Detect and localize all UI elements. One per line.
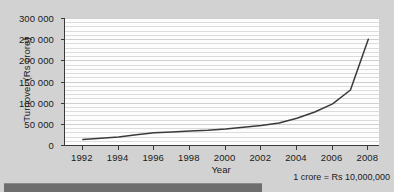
y-axis-tick-label: 150 000	[19, 76, 54, 87]
x-axis-tick-label: 1996	[142, 152, 164, 163]
y-axis-tick	[61, 124, 65, 125]
y-axis-tick	[61, 82, 65, 83]
series-turnover-line	[65, 18, 379, 145]
x-axis-tick-label: 2006	[321, 152, 343, 163]
y-axis-tick-label: 100 000	[19, 97, 54, 108]
x-axis-tick-label: 1992	[71, 152, 93, 163]
x-axis-tick	[332, 146, 333, 150]
x-axis-tick	[296, 146, 297, 150]
x-axis-tick	[153, 146, 154, 150]
x-axis-tick	[260, 146, 261, 150]
y-axis-tick-label: 0	[49, 140, 54, 151]
x-axis-tick-label: 1994	[107, 152, 129, 163]
chart-figure: Turnover (Rs crore) 050 000100 000150 00…	[0, 0, 394, 192]
y-axis-tick	[61, 39, 65, 40]
x-axis-tick-label: 2000	[214, 152, 236, 163]
x-axis-tick-label: 2004	[285, 152, 307, 163]
y-axis-tick-labels: 050 000100 000150 000200 000250 000300 0…	[0, 0, 58, 192]
x-axis-tick-label: 2002	[249, 152, 271, 163]
y-axis-tick-label: 300 000	[19, 13, 54, 24]
y-axis-tick-label: 200 000	[19, 55, 54, 66]
plot-area	[64, 18, 379, 145]
y-axis-tick-label: 50 000	[24, 118, 54, 129]
x-axis-tick	[82, 146, 83, 150]
x-axis-tick-label: 1998	[178, 152, 200, 163]
x-axis-tick	[189, 146, 190, 150]
y-axis-tick	[61, 18, 65, 19]
y-axis-tick	[61, 103, 65, 104]
x-axis-tick	[367, 146, 368, 150]
x-axis-tick	[225, 146, 226, 150]
x-axis-tick	[118, 146, 119, 150]
x-axis-tick-label: 2008	[357, 152, 379, 163]
y-axis-tick	[61, 60, 65, 61]
y-axis-tick-label: 250 000	[19, 34, 54, 45]
bottom-decorative-bar	[4, 183, 262, 192]
footnote-crore-conversion: 1 crore = Rs 10,000,000	[293, 172, 390, 182]
